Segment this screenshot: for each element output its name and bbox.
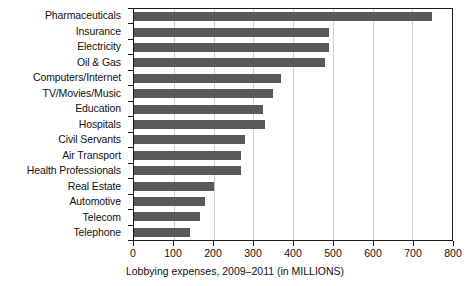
bar (134, 197, 205, 206)
category-label: Insurance (0, 23, 126, 38)
bar (134, 105, 263, 114)
bar (134, 166, 241, 175)
bar (134, 182, 214, 191)
bar (134, 212, 200, 221)
bar-row (134, 24, 452, 39)
bar-row (134, 9, 452, 24)
plot-area (133, 8, 453, 241)
category-axis: PharmaceuticalsInsuranceElectricityOil &… (0, 8, 126, 240)
bar (134, 43, 329, 52)
bar-row (134, 117, 452, 132)
bar (134, 28, 329, 37)
category-label: Computers/Internet (0, 70, 126, 85)
category-label: Automotive (0, 194, 126, 209)
x-axis-tick-label: 600 (364, 246, 382, 260)
x-axis-tick-label: 700 (404, 246, 422, 260)
x-axis-tick-label: 500 (324, 246, 342, 260)
category-label: Telecom (0, 209, 126, 224)
bar-row (134, 148, 452, 163)
category-label: Telephone (0, 225, 126, 240)
bar (134, 58, 325, 67)
x-axis-tick-label: 300 (244, 246, 262, 260)
bar-row (134, 71, 452, 86)
bar-row (134, 225, 452, 240)
bar-row (134, 194, 452, 209)
category-label: Real Estate (0, 178, 126, 193)
x-axis-title: Lobbying expenses, 2009–2011 (in MILLION… (0, 265, 470, 277)
x-axis-tick-labels: 0100200300400500600700800 (133, 246, 453, 260)
bars-layer (134, 9, 452, 240)
category-label: Civil Servants (0, 132, 126, 147)
category-label: Health Professionals (0, 163, 126, 178)
x-axis-tick-label: 400 (284, 246, 302, 260)
x-axis-tick-label: 800 (444, 246, 462, 260)
bar-row (134, 101, 452, 116)
bar (134, 12, 432, 21)
bar (134, 74, 281, 83)
x-axis-tick-label: 100 (164, 246, 182, 260)
bar-row (134, 132, 452, 147)
category-label: Hospitals (0, 116, 126, 131)
bar-row (134, 55, 452, 70)
bar-row (134, 163, 452, 178)
bar (134, 135, 245, 144)
category-label: Electricity (0, 39, 126, 54)
bar (134, 89, 273, 98)
category-label: Education (0, 101, 126, 116)
bar-row (134, 209, 452, 224)
x-axis-tick-label: 200 (204, 246, 222, 260)
category-label: TV/Movies/Music (0, 85, 126, 100)
bar-row (134, 86, 452, 101)
bar (134, 151, 241, 160)
x-axis-tick-label: 0 (130, 246, 136, 260)
category-label: Oil & Gas (0, 54, 126, 69)
bar-row (134, 40, 452, 55)
category-label: Pharmaceuticals (0, 8, 126, 23)
category-label: Air Transport (0, 147, 126, 162)
bar (134, 228, 190, 237)
bar-chart: PharmaceuticalsInsuranceElectricityOil &… (0, 0, 470, 286)
bar (134, 120, 265, 129)
bar-row (134, 178, 452, 193)
